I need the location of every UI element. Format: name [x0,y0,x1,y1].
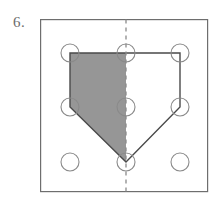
geometry-figure: 6. [0,0,221,205]
symmetry-diagram-svg [0,0,221,205]
